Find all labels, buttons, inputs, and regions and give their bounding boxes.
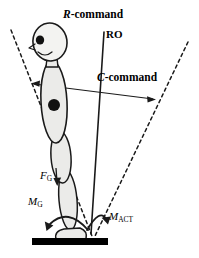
- foot-shape: [56, 228, 87, 239]
- ro-reference-line: [91, 32, 104, 234]
- center-of-mass-dot: [48, 99, 60, 111]
- eye-dot: [36, 35, 44, 44]
- ground-bar: [32, 238, 108, 245]
- posture-control-figure: R-command RO C-command FG MG MACT: [0, 0, 199, 258]
- label-m-gravity: MG: [28, 196, 43, 209]
- label-f-gravity: FG: [40, 170, 52, 183]
- label-c-command: C-command: [97, 72, 157, 84]
- label-r-command: R-command: [63, 9, 123, 21]
- label-ro: RO: [106, 29, 123, 40]
- figure-canvas: [0, 0, 199, 258]
- label-m-active: MACT: [109, 211, 133, 224]
